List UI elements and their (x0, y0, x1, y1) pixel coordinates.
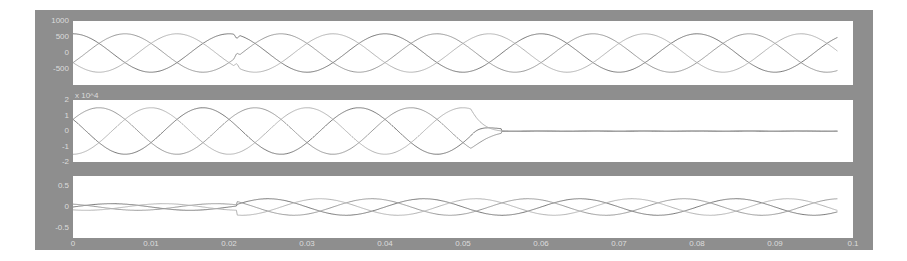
plot-lines (73, 21, 853, 85)
plot-panel-current (73, 176, 853, 238)
y-tick-label: 500 (35, 33, 69, 41)
x-tick-label: 0.1 (838, 239, 868, 248)
x-tick-label: 0.08 (682, 239, 712, 248)
y-tick-label: 2 (35, 96, 69, 104)
x-tick-label: 0.05 (448, 239, 478, 248)
y-tick-label: -1 (35, 143, 69, 151)
figure-frame: x 10^4 10005000-500210-1-20.50-0.5 00.01… (35, 10, 873, 250)
plot-lines (73, 176, 853, 238)
x-tick-label: 0.09 (760, 239, 790, 248)
y-tick-label: -500 (35, 65, 69, 73)
plot-panel-voltage (73, 21, 853, 85)
series-line (73, 108, 837, 155)
y-tick-label: 0 (35, 127, 69, 135)
plot-lines (73, 100, 853, 162)
x-tick-label: 0.03 (292, 239, 322, 248)
x-tick-label: 0.04 (370, 239, 400, 248)
x-tick-label: 0 (58, 239, 88, 248)
y-tick-label: -0.5 (35, 224, 69, 232)
y-tick-label: 1000 (35, 17, 69, 25)
series-line (73, 34, 837, 72)
y-tick-label: 0 (35, 49, 69, 57)
x-tick-label: 0.02 (214, 239, 244, 248)
series-line (73, 34, 837, 72)
x-tick-label: 0.01 (136, 239, 166, 248)
y-tick-label: 1 (35, 112, 69, 120)
y-tick-label: -2 (35, 158, 69, 166)
y-tick-label: 0 (35, 203, 69, 211)
plot-panel-signal (73, 100, 853, 162)
series-line (73, 34, 837, 72)
x-tick-label: 0.06 (526, 239, 556, 248)
y-tick-label: 0.5 (35, 182, 69, 190)
x-tick-label: 0.07 (604, 239, 634, 248)
y-multiplier-label: x 10^4 (75, 91, 98, 100)
